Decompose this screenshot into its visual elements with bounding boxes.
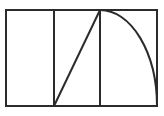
- geometric-figure-diagram: [0, 0, 164, 116]
- figure-background: [0, 0, 164, 116]
